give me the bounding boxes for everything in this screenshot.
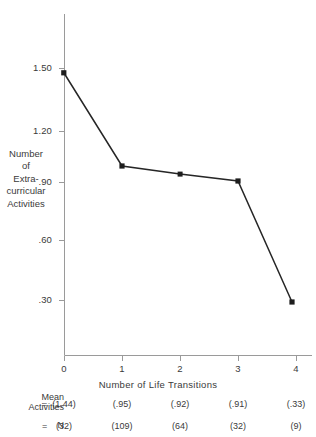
- table-row-mean-activities: Mean Activities = (1.44) (.95) (.92) (.9…: [0, 393, 316, 415]
- cell-n-4: (9): [276, 421, 316, 431]
- data-point-2: [178, 172, 183, 177]
- cell-n-0: (32): [44, 421, 84, 431]
- data-point-0: [61, 70, 66, 75]
- x-tick-label-3: 3: [228, 363, 248, 374]
- data-point-1: [119, 163, 124, 168]
- cell-mean-4: (.33): [276, 399, 316, 409]
- cell-n-1: (109): [102, 421, 142, 431]
- y-tick-label-0-60: .60: [8, 235, 52, 245]
- y-axis-tick-marks: [59, 69, 65, 301]
- cell-mean-1: (.95): [102, 399, 142, 409]
- y-tick-label-1-20: 1.20: [8, 126, 52, 136]
- data-point-4: [289, 299, 294, 304]
- y-axis-title: Number of Extra- curricular Activities: [2, 148, 50, 210]
- cell-n-3: (32): [218, 421, 258, 431]
- cell-mean-0: (1.44): [44, 399, 84, 409]
- x-tick-label-1: 1: [112, 363, 132, 374]
- cell-mean-3: (.91): [218, 399, 258, 409]
- data-point-3: [235, 178, 240, 183]
- table-row-n: N = (32) (109) (64) (32) (9): [0, 415, 316, 437]
- x-tick-label-2: 2: [170, 363, 190, 374]
- x-axis-tick-marks: [65, 356, 297, 362]
- data-point-markers: [61, 70, 294, 304]
- y-tick-label-0-30: .30: [8, 295, 52, 305]
- y-axis-title-line-1: Number: [2, 148, 50, 160]
- y-axis-title-line-3: Extra-: [2, 173, 50, 185]
- y-axis-title-line-2: of: [2, 160, 50, 172]
- y-axis-title-line-5: Activities: [2, 198, 50, 210]
- cell-mean-2: (.92): [160, 399, 200, 409]
- y-axis-title-line-4: curricular: [2, 185, 50, 197]
- y-tick-label-1-50: 1.50: [8, 63, 52, 73]
- x-tick-label-4: 4: [286, 363, 306, 374]
- x-tick-label-0: 0: [54, 363, 74, 374]
- x-axis-title: Number of Life Transitions: [0, 379, 316, 390]
- cell-n-2: (64): [160, 421, 200, 431]
- data-series-line: [64, 73, 292, 302]
- line-chart-figure: 1.50 1.20 .90 .60 .30 Number of Extra- c…: [0, 0, 316, 437]
